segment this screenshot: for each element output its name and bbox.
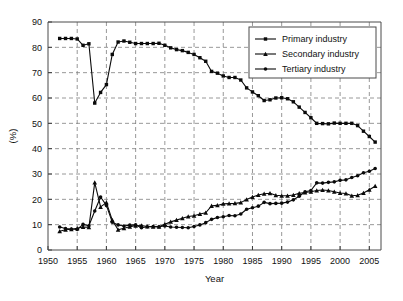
series-primary-industry-square-marker xyxy=(315,122,318,125)
series-tertiary-industry-circle-marker xyxy=(192,225,196,229)
series-secondary-industry-triangle-marker xyxy=(361,191,366,195)
series-primary-industry-square-marker xyxy=(222,74,225,77)
series-primary-industry-square-marker xyxy=(309,116,312,119)
y-tick-label: 30 xyxy=(32,169,42,179)
series-primary-industry-square-marker xyxy=(333,121,336,124)
series-tertiary-industry-circle-marker xyxy=(286,200,290,204)
series-tertiary-industry-circle-marker xyxy=(70,227,74,231)
series-primary-industry-square-marker xyxy=(233,76,236,79)
series-primary-industry-square-marker xyxy=(239,78,242,81)
series-tertiary-industry-circle-marker xyxy=(280,201,284,205)
series-tertiary-industry-circle-marker xyxy=(116,223,120,227)
series-tertiary-industry-circle-marker xyxy=(274,202,278,206)
series-tertiary-industry-circle-marker xyxy=(309,189,313,193)
series-secondary-industry-triangle-marker xyxy=(373,184,378,188)
series-primary-industry-square-marker xyxy=(87,42,90,45)
x-axis-title: Year xyxy=(205,273,224,284)
series-tertiary-industry-circle-marker xyxy=(227,214,231,218)
y-tick-label: 80 xyxy=(32,43,42,53)
x-tick-label: 1995 xyxy=(301,256,321,266)
series-tertiary-industry-circle-marker xyxy=(327,181,331,185)
series-tertiary-industry-circle-marker xyxy=(134,223,138,227)
series-tertiary-industry-circle-marker xyxy=(338,179,342,183)
series-tertiary-industry-circle-marker xyxy=(292,198,296,202)
series-tertiary-industry-circle-marker xyxy=(175,225,179,229)
series-primary-industry-square-marker xyxy=(251,90,254,93)
series-tertiary-industry-circle-marker xyxy=(204,221,208,225)
series-primary-industry-square-marker xyxy=(373,140,376,143)
x-tick-label: 1975 xyxy=(184,256,204,266)
x-tick-label: 1985 xyxy=(242,256,262,266)
series-tertiary-industry-circle-marker xyxy=(81,223,85,227)
series-tertiary-industry-circle-marker xyxy=(321,181,325,185)
y-tick-label: 60 xyxy=(32,93,42,103)
y-tick-label: 70 xyxy=(32,68,42,78)
series-primary-industry-square-marker xyxy=(268,98,271,101)
series-tertiary-industry-circle-marker xyxy=(186,226,190,230)
series-tertiary-industry-circle-marker xyxy=(251,206,255,210)
series-primary-industry-square-marker xyxy=(362,129,365,132)
series-primary-industry-square-marker xyxy=(257,94,260,97)
series-primary-industry-square-marker xyxy=(111,53,114,56)
series-primary-industry-square-marker xyxy=(146,42,149,45)
series-primary-industry-square-marker xyxy=(105,83,108,86)
series-primary-industry-square-marker xyxy=(292,100,295,103)
industry-share-line-chart: 0102030405060708090195019551960196519701… xyxy=(0,0,403,301)
series-primary-industry-square-marker xyxy=(303,111,306,114)
series-tertiary-industry-circle-marker xyxy=(257,204,261,208)
series-tertiary-industry-circle-marker xyxy=(210,218,214,222)
series-primary-industry-square-marker xyxy=(245,86,248,89)
chart-figure: 0102030405060708090195019551960196519701… xyxy=(0,0,403,301)
y-tick-label: 10 xyxy=(32,220,42,230)
series-primary-industry-square-marker xyxy=(70,37,73,40)
series-primary-industry-square-marker xyxy=(151,42,154,45)
series-primary-industry-square-marker xyxy=(286,97,289,100)
x-tick-label: 1965 xyxy=(126,256,146,266)
series-primary-industry-square-marker xyxy=(64,37,67,40)
y-tick-label: 20 xyxy=(32,195,42,205)
series-tertiary-industry-circle-marker xyxy=(151,225,155,229)
y-tick-label: 90 xyxy=(32,17,42,27)
series-primary-industry-square-marker xyxy=(99,91,102,94)
y-axis-title: (%) xyxy=(7,129,18,144)
series-tertiary-industry-circle-marker xyxy=(268,202,272,206)
series-primary-industry-square-marker xyxy=(198,56,201,59)
series-tertiary-industry-circle-marker xyxy=(157,225,161,229)
series-tertiary-industry-circle-marker xyxy=(362,171,366,175)
series-primary-industry-square-marker xyxy=(76,37,79,40)
series-primary-industry-square-marker xyxy=(81,44,84,47)
series-tertiary-industry-circle-marker xyxy=(344,178,348,182)
legend-tertiary-industry-circle-marker xyxy=(264,67,268,71)
series-primary-industry-square-marker xyxy=(216,71,219,74)
series-primary-industry-square-marker xyxy=(350,122,353,125)
series-tertiary-industry-circle-marker xyxy=(163,224,167,228)
series-primary-industry-square-marker xyxy=(338,122,341,125)
series-tertiary-industry-circle-marker xyxy=(58,225,62,229)
series-primary-industry-square-marker xyxy=(262,99,265,102)
legend-label-primary-industry: Primary industry xyxy=(282,34,348,44)
series-tertiary-industry-circle-marker xyxy=(373,167,377,171)
series-tertiary-industry-circle-marker xyxy=(75,228,79,232)
series-primary-industry-square-marker xyxy=(140,42,143,45)
series-primary-industry-square-marker xyxy=(181,49,184,52)
series-primary-industry-square-marker xyxy=(157,42,160,45)
x-tick-label: 1960 xyxy=(96,256,116,266)
y-tick-label: 50 xyxy=(32,119,42,129)
series-tertiary-industry-circle-marker xyxy=(146,225,150,229)
series-primary-industry-square-marker xyxy=(327,122,330,125)
x-tick-label: 2000 xyxy=(330,256,350,266)
series-tertiary-industry-circle-marker xyxy=(297,194,301,198)
x-tick-label: 2005 xyxy=(359,256,379,266)
x-tick-label: 1950 xyxy=(38,256,58,266)
series-secondary-industry-triangle-marker xyxy=(92,180,97,184)
series-primary-industry-square-marker xyxy=(122,39,125,42)
series-tertiary-industry-circle-marker xyxy=(245,207,249,211)
x-tick-label: 1980 xyxy=(213,256,233,266)
legend-label-tertiary-industry: Tertiary industry xyxy=(282,64,346,74)
y-tick-label: 40 xyxy=(32,144,42,154)
series-tertiary-industry-circle-marker xyxy=(216,216,220,220)
series-primary-industry-square-marker xyxy=(356,124,359,127)
series-primary-industry-square-marker xyxy=(368,135,371,138)
series-tertiary-industry-circle-marker xyxy=(169,225,173,229)
series-primary-industry-square-marker xyxy=(58,37,61,40)
